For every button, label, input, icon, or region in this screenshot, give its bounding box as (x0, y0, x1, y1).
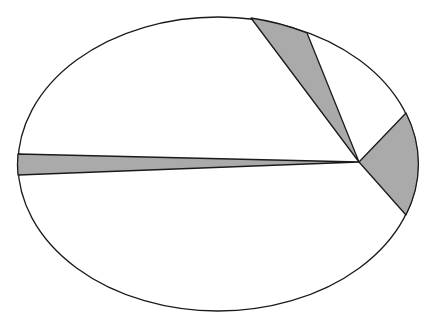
ellipse-wedge-diagram (0, 0, 436, 323)
